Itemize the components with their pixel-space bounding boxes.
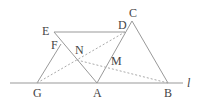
label-D: D	[118, 19, 127, 31]
geometry-diagram: E D C F N M G A B l	[0, 0, 203, 101]
label-N: N	[75, 44, 84, 56]
dashed-NB	[77, 60, 168, 83]
segment-CB	[132, 21, 168, 83]
label-B: B	[164, 87, 172, 99]
label-A: A	[93, 87, 102, 99]
label-G: G	[33, 87, 42, 99]
segment-EA	[54, 32, 97, 83]
label-M: M	[111, 55, 122, 67]
label-E: E	[42, 25, 49, 37]
label-l: l	[187, 77, 190, 89]
label-F: F	[51, 39, 58, 51]
label-C: C	[129, 7, 137, 19]
